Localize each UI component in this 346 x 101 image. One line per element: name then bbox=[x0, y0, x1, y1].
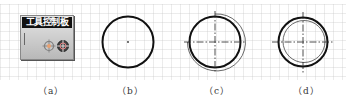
caption-b: （b） bbox=[117, 84, 144, 97]
caption-d: （d） bbox=[293, 84, 320, 97]
caption-c: （c） bbox=[204, 84, 230, 97]
circle-figure-b bbox=[103, 17, 154, 68]
circle-figure-d bbox=[272, 12, 334, 73]
circle-figure-c bbox=[184, 11, 246, 73]
caption-a: （a） bbox=[38, 84, 64, 97]
